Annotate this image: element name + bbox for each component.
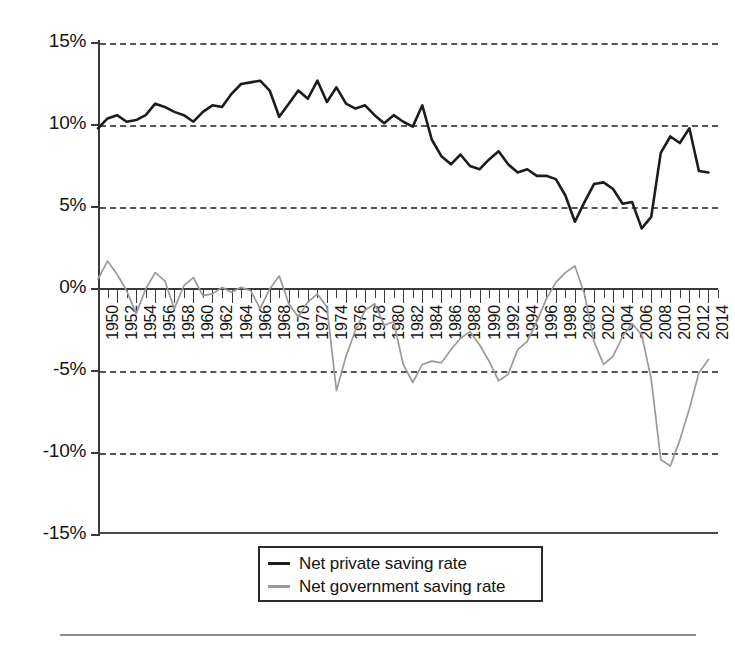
series-line-net-private-saving-rate [98, 81, 708, 229]
figure: 15%10%5%0%-5%-10%-15% 195019521954195619… [0, 0, 735, 667]
legend-item-private: Net private saving rate [268, 552, 535, 575]
legend-line-government-icon [268, 585, 290, 588]
legend-item-government: Net government saving rate [268, 575, 535, 598]
chart-legend: Net private saving rate Net government s… [258, 546, 543, 602]
legend-label-government: Net government saving rate [299, 577, 505, 597]
footer-divider [60, 634, 696, 636]
legend-label-private: Net private saving rate [299, 554, 467, 574]
legend-line-private-icon [268, 562, 290, 565]
series-line-net-government-saving-rate [98, 261, 708, 466]
